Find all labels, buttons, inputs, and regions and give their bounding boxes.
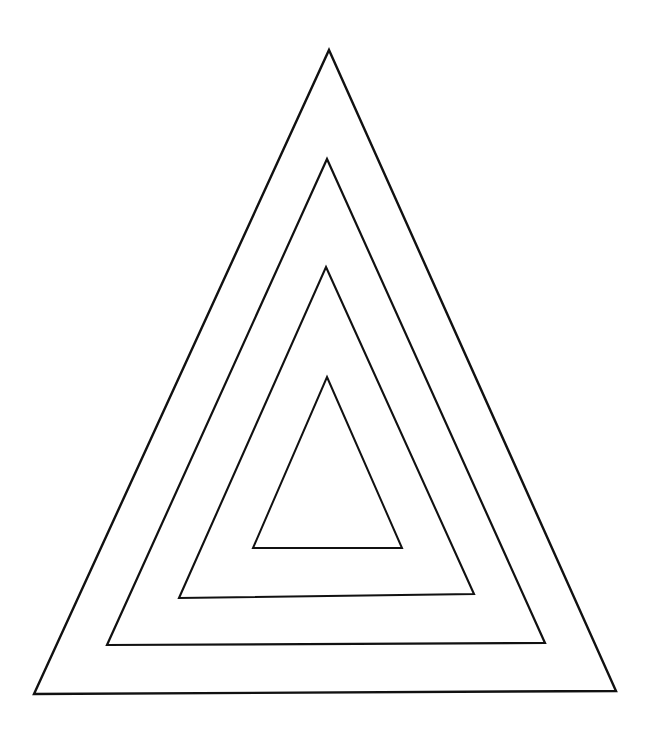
drawing-canvas [0, 0, 649, 736]
canvas-background [0, 0, 649, 736]
nested-triangles-figure [0, 0, 649, 736]
